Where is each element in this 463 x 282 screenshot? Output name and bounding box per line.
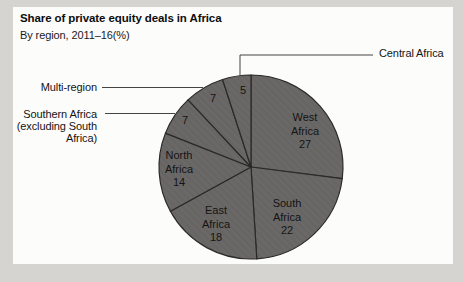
pie-label-south-africa-line3: 22 (281, 224, 293, 236)
pie-label-north-africa-line3: 14 (173, 176, 185, 188)
pie-label-east-africa-line1: East (205, 204, 227, 216)
pie-label-south-africa-line2: Africa (273, 211, 302, 223)
callout-label-southern-africa: Southern Africa (excluding South Africa) (13, 108, 97, 144)
pie-label-east-africa-line3: 18 (210, 231, 222, 243)
callout-label-southern-africa-line3: Africa) (13, 132, 97, 144)
pie-value-central-africa: 5 (240, 84, 246, 96)
callout-label-multi-region: Multi-region (13, 81, 97, 94)
pie-value-multi-region: 7 (210, 92, 216, 104)
callout-label-central-africa: Central Africa (379, 47, 444, 60)
pie-label-west-africa-line2: Africa (291, 125, 320, 137)
pie-label-south-africa-line1: South (273, 197, 302, 209)
pie-value-southern-africa-excluding-south-africa: 7 (182, 114, 188, 126)
pie-label-north-africa-line2: Africa (165, 163, 194, 175)
callout-label-central-africa-text: Central Africa (379, 47, 444, 59)
chart-card: Share of private equity deals in Africa … (13, 7, 453, 264)
pie-label-east-africa-line2: Africa (202, 218, 231, 230)
chart-figure: Share of private equity deals in Africa … (0, 0, 463, 282)
callout-label-southern-africa-line2: (excluding South (13, 120, 97, 132)
pie-label-west-africa-line3: 27 (299, 138, 311, 150)
pie-label-west-africa-line1: West (293, 111, 318, 123)
callout-label-multi-region-text: Multi-region (41, 81, 97, 93)
callout-line-central-africa (240, 55, 373, 76)
callout-label-southern-africa-line1: Southern Africa (13, 108, 97, 120)
pie-label-north-africa-line1: North (166, 149, 193, 161)
